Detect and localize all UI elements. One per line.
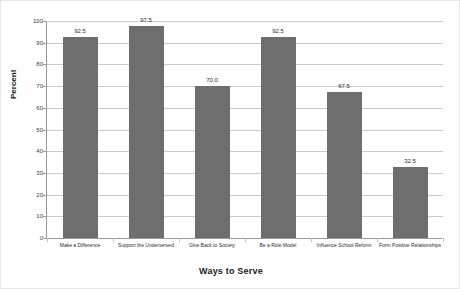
y-axis-tick-label: 20 bbox=[15, 192, 43, 198]
y-axis-tick bbox=[43, 195, 47, 196]
y-axis-tick-label: 60 bbox=[15, 105, 43, 111]
x-axis-title: Ways to Serve bbox=[1, 266, 460, 276]
y-axis-tick-label: 0 bbox=[15, 235, 43, 241]
y-axis-tick bbox=[43, 151, 47, 152]
y-axis-tick bbox=[43, 108, 47, 109]
gridline bbox=[47, 151, 443, 152]
bar[interactable] bbox=[63, 37, 98, 238]
gridline bbox=[47, 130, 443, 131]
gridline bbox=[47, 43, 443, 44]
bar[interactable] bbox=[129, 26, 164, 238]
x-axis-tick bbox=[443, 238, 444, 242]
bar-value-label: 92.5 bbox=[74, 28, 86, 34]
gridline bbox=[47, 64, 443, 65]
x-axis-category-label: Support the Underserved bbox=[115, 242, 177, 249]
y-axis-tick-labels: 0102030405060708090100 bbox=[13, 21, 43, 238]
gridline bbox=[47, 108, 443, 109]
x-axis-category-labels: Make a DifferenceSupport the Underserved… bbox=[47, 242, 443, 266]
bar-value-label: 70.0 bbox=[206, 77, 218, 83]
bar-value-label: 97.5 bbox=[140, 17, 152, 23]
bar[interactable] bbox=[327, 92, 362, 238]
plot-area: 92.597.570.092.567.532.5 bbox=[47, 21, 443, 238]
y-axis-tick-label: 100 bbox=[15, 18, 43, 24]
bar[interactable] bbox=[261, 37, 296, 238]
x-axis-category-label: Give Back to Society bbox=[181, 242, 243, 249]
y-axis-tick-label: 50 bbox=[15, 127, 43, 133]
y-axis-tick-label: 90 bbox=[15, 40, 43, 46]
y-axis-tick-label: 30 bbox=[15, 170, 43, 176]
y-axis-tick-label: 40 bbox=[15, 148, 43, 154]
gridline bbox=[47, 21, 443, 22]
y-axis-tick-label: 80 bbox=[15, 61, 43, 67]
bar-value-label: 67.5 bbox=[338, 83, 350, 89]
bar[interactable] bbox=[393, 167, 428, 238]
x-axis-category-label: Be a Role Model bbox=[247, 242, 309, 249]
y-axis-tick-label: 70 bbox=[15, 83, 43, 89]
gridline bbox=[47, 195, 443, 196]
y-axis-tick bbox=[43, 173, 47, 174]
bar-value-label: 92.5 bbox=[272, 28, 284, 34]
y-axis-tick bbox=[43, 86, 47, 87]
gridline bbox=[47, 86, 443, 87]
bar-chart: Percent 0102030405060708090100 92.597.57… bbox=[0, 0, 460, 289]
y-axis-tick bbox=[43, 43, 47, 44]
y-axis-tick bbox=[43, 130, 47, 131]
bar-value-label: 32.5 bbox=[404, 158, 416, 164]
gridline bbox=[47, 173, 443, 174]
x-axis-category-label: Form Positive Relationships bbox=[379, 242, 441, 249]
y-axis-tick bbox=[43, 64, 47, 65]
gridline bbox=[47, 216, 443, 217]
y-axis-tick bbox=[43, 21, 47, 22]
x-axis-category-label: Influence School Reform bbox=[313, 242, 375, 249]
bar[interactable] bbox=[195, 86, 230, 238]
x-axis-category-label: Make a Difference bbox=[49, 242, 111, 249]
y-axis-tick-label: 10 bbox=[15, 213, 43, 219]
y-axis-tick bbox=[43, 216, 47, 217]
